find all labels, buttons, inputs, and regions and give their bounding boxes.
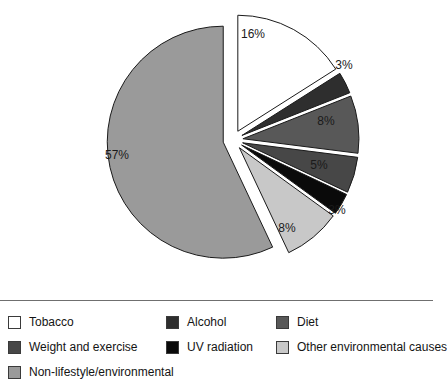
- pie-slice-label: 8%: [317, 114, 335, 128]
- pie-slice-label: 5%: [310, 158, 328, 172]
- legend-label: Diet: [297, 316, 318, 329]
- legend-row: Tobacco Alcohol Diet: [0, 311, 433, 333]
- pie-slice-label: 8%: [278, 221, 296, 235]
- legend-item-diet[interactable]: Diet: [276, 311, 318, 333]
- legend-item-other-environmental-causes[interactable]: Other environmental causes: [276, 336, 447, 358]
- legend-label: Other environmental causes: [297, 341, 447, 354]
- legend-item-weight-and-exercise[interactable]: Weight and exercise: [8, 336, 138, 358]
- legend-row: Non-lifestyle/environmental: [0, 361, 433, 383]
- chart-legend: Tobacco Alcohol Diet Weight and exercise…: [0, 300, 433, 388]
- pie-chart-area: 16%3%8%5%3%8%57%: [0, 0, 433, 300]
- legend-label: Tobacco: [29, 316, 74, 329]
- pie-chart-svg: 16%3%8%5%3%8%57%: [0, 0, 433, 300]
- legend-item-non-lifestyle-environmental[interactable]: Non-lifestyle/environmental: [8, 361, 174, 383]
- legend-label: UV radiation: [187, 341, 253, 354]
- legend-swatch-alcohol: [166, 316, 179, 329]
- legend-item-uv-radiation[interactable]: UV radiation: [166, 336, 253, 358]
- pie-slice-label: 3%: [335, 58, 353, 72]
- pie-slices-group: [107, 15, 359, 258]
- legend-swatch-diet: [276, 316, 289, 329]
- legend-swatch-tobacco: [8, 316, 21, 329]
- legend-swatch-weight-and-exercise: [8, 341, 21, 354]
- legend-row: Weight and exercise UV radiation Other e…: [0, 336, 433, 358]
- pie-slice-label: 16%: [241, 27, 265, 41]
- pie-slice-label: 57%: [105, 148, 129, 162]
- legend-swatch-uv-radiation: [166, 341, 179, 354]
- legend-label: Non-lifestyle/environmental: [29, 366, 174, 379]
- legend-label: Weight and exercise: [29, 341, 138, 354]
- legend-item-alcohol[interactable]: Alcohol: [166, 311, 226, 333]
- legend-swatch-non-lifestyle-environmental: [8, 366, 21, 379]
- legend-item-tobacco[interactable]: Tobacco: [8, 311, 74, 333]
- legend-divider: [0, 300, 433, 301]
- legend-label: Alcohol: [187, 316, 226, 329]
- pie-slice-label: 3%: [328, 203, 346, 217]
- legend-swatch-other-environmental-causes: [276, 341, 289, 354]
